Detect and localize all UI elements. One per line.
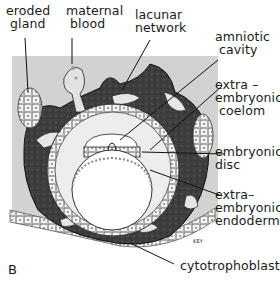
label-eroded-gland: eroded gland xyxy=(6,4,50,30)
label-extraembryonic-coelom: extra – embryonic coelom xyxy=(215,78,280,117)
embryo-diagram: eroded gland maternal blood lacunar netw… xyxy=(0,0,280,281)
exocoelomic-cavity xyxy=(72,150,152,230)
label-maternal-blood: maternal blood xyxy=(66,4,123,30)
label-amniotic-cavity: amniotic cavity xyxy=(215,30,270,56)
label-cytotrophoblast: cytotrophoblast xyxy=(180,259,280,272)
right-gland xyxy=(193,114,213,158)
eroded-gland xyxy=(18,88,42,128)
label-extraembryonic-endoderm: extra– embryonic endoderm xyxy=(215,188,280,227)
label-lacunar-network: lacunar network xyxy=(135,8,186,34)
key-tag: KEY xyxy=(193,238,203,244)
panel-letter: B xyxy=(8,262,17,277)
label-embryonic-disc: embryonic disc xyxy=(215,145,280,171)
